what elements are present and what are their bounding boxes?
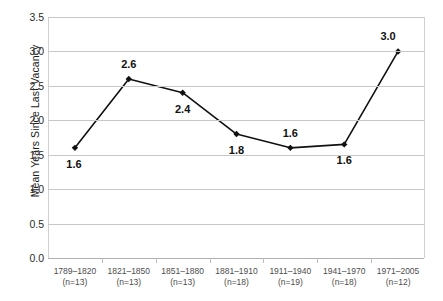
x-tick-mark <box>317 258 318 263</box>
data-series-line <box>48 17 425 258</box>
gridline-2.5 <box>48 86 424 87</box>
x-tick-mark <box>210 258 211 263</box>
data-point-marker <box>287 145 293 151</box>
x-category-count: (n=12) <box>353 277 443 288</box>
y-tick-label-2.5: 2.5 <box>8 80 44 92</box>
data-label-1941–1970: 1.6 <box>337 154 352 166</box>
data-label-1881–1910: 1.8 <box>229 144 244 156</box>
y-axis-tick-labels: 0.00.51.01.52.02.53.03.5 <box>0 0 44 301</box>
y-tick-label-3.0: 3.0 <box>8 45 44 57</box>
y-tick-label-1.0: 1.0 <box>8 183 44 195</box>
data-point-marker <box>341 141 347 147</box>
x-tick-mark <box>371 258 372 263</box>
line-chart: Mean Years Since Last Vacancy 0.00.51.01… <box>0 0 443 301</box>
plot-area <box>48 17 425 258</box>
gridline-3.5 <box>48 17 424 18</box>
gridline-0.0 <box>48 258 424 259</box>
data-label-1851–1880: 2.4 <box>175 103 190 115</box>
x-tick-mark <box>156 258 157 263</box>
y-tick-label-2.0: 2.0 <box>8 114 44 126</box>
data-label-1971–2005: 3.0 <box>380 30 395 42</box>
x-tick-mark <box>263 258 264 263</box>
gridline-1.0 <box>48 189 424 190</box>
gridline-0.5 <box>48 224 424 225</box>
y-tick-label-0.0: 0.0 <box>8 252 44 264</box>
x-category-range: 1971–2005 <box>377 266 420 276</box>
gridline-2.0 <box>48 120 424 121</box>
y-tick-label-0.5: 0.5 <box>8 218 44 230</box>
y-tick-label-3.5: 3.5 <box>8 11 44 23</box>
data-label-1821–1850: 2.6 <box>121 58 136 70</box>
data-label-1789–1820: 1.6 <box>66 158 81 170</box>
data-label-1911–1940: 1.6 <box>283 127 298 139</box>
x-tick-mark <box>102 258 103 263</box>
y-tick-label-1.5: 1.5 <box>8 149 44 161</box>
gridline-3.0 <box>48 51 424 52</box>
x-category-label-1971–2005: 1971–2005(n=12) <box>353 266 443 288</box>
